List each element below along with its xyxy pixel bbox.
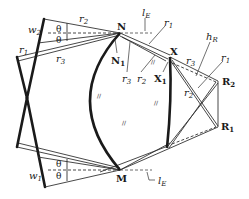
nx-upper (120, 33, 170, 55)
geometric-diagram: // // // // N N1 M X X1 R2 R1 w2 w1 θ θ … (0, 0, 249, 199)
boundary-curve-x (167, 57, 171, 148)
boundary-curve-nm (90, 33, 120, 170)
label-r1-top: r1 (164, 17, 173, 30)
hatch-mark-3: // (154, 99, 159, 106)
bottom-left-wedge (38, 157, 120, 187)
bottom-wedge-upper-edge (38, 157, 120, 170)
label-r2-mid: r2 (137, 73, 147, 86)
label-N: N (117, 21, 126, 32)
label-le-bottom: lE (158, 175, 166, 188)
label-R1: R1 (221, 121, 234, 134)
x1-pointer (163, 62, 168, 72)
label-w1: w1 (29, 170, 42, 183)
label-r1-left: r1 (19, 44, 28, 57)
r1-bottom-edge (168, 127, 218, 149)
label-X: X (170, 46, 178, 57)
label-r2-top: r2 (79, 13, 89, 26)
label-hr: hR (206, 31, 218, 44)
hr-dashed-bottom (172, 127, 216, 144)
label-r3-mid: r3 (122, 73, 132, 86)
m-band-upper (120, 143, 170, 170)
n1-pointer (115, 39, 117, 53)
label-r3-left: r3 (56, 53, 66, 66)
r3-pointer (127, 42, 130, 72)
r1-top-pointer (149, 26, 165, 44)
label-X1: X1 (154, 73, 167, 86)
label-N1: N1 (111, 55, 125, 68)
theta-bottom-lower: θ (56, 171, 61, 181)
left-lower-thick (17, 98, 27, 147)
label-r1-right: r1 (221, 52, 230, 65)
hatch-mark-2: // (122, 119, 127, 126)
hatch-marks: // // // // (97, 58, 159, 126)
le-bottom-pointer (147, 172, 155, 180)
right-wedge (168, 57, 218, 149)
labels: N N1 M X X1 R2 R1 w2 w1 θ θ θ θ r2 r1 r3… (19, 7, 235, 188)
r1-right-pointer (198, 61, 223, 88)
label-M: M (116, 173, 127, 184)
le-lines (120, 33, 152, 170)
hatch-mark-1: // (97, 92, 102, 99)
m-band-lower (120, 149, 168, 170)
hr-pointer (196, 42, 210, 76)
label-le-top: lE (142, 7, 150, 20)
theta-top-lower: θ (56, 35, 61, 45)
left-upper-thick (17, 57, 27, 98)
theta-top-upper: θ (56, 24, 61, 34)
theta-bottom-upper: θ (56, 159, 61, 169)
label-R2: R2 (222, 76, 235, 89)
nx-band (120, 33, 170, 61)
hatch-mark-4: // (151, 58, 156, 65)
label-w2: w2 (28, 24, 42, 37)
